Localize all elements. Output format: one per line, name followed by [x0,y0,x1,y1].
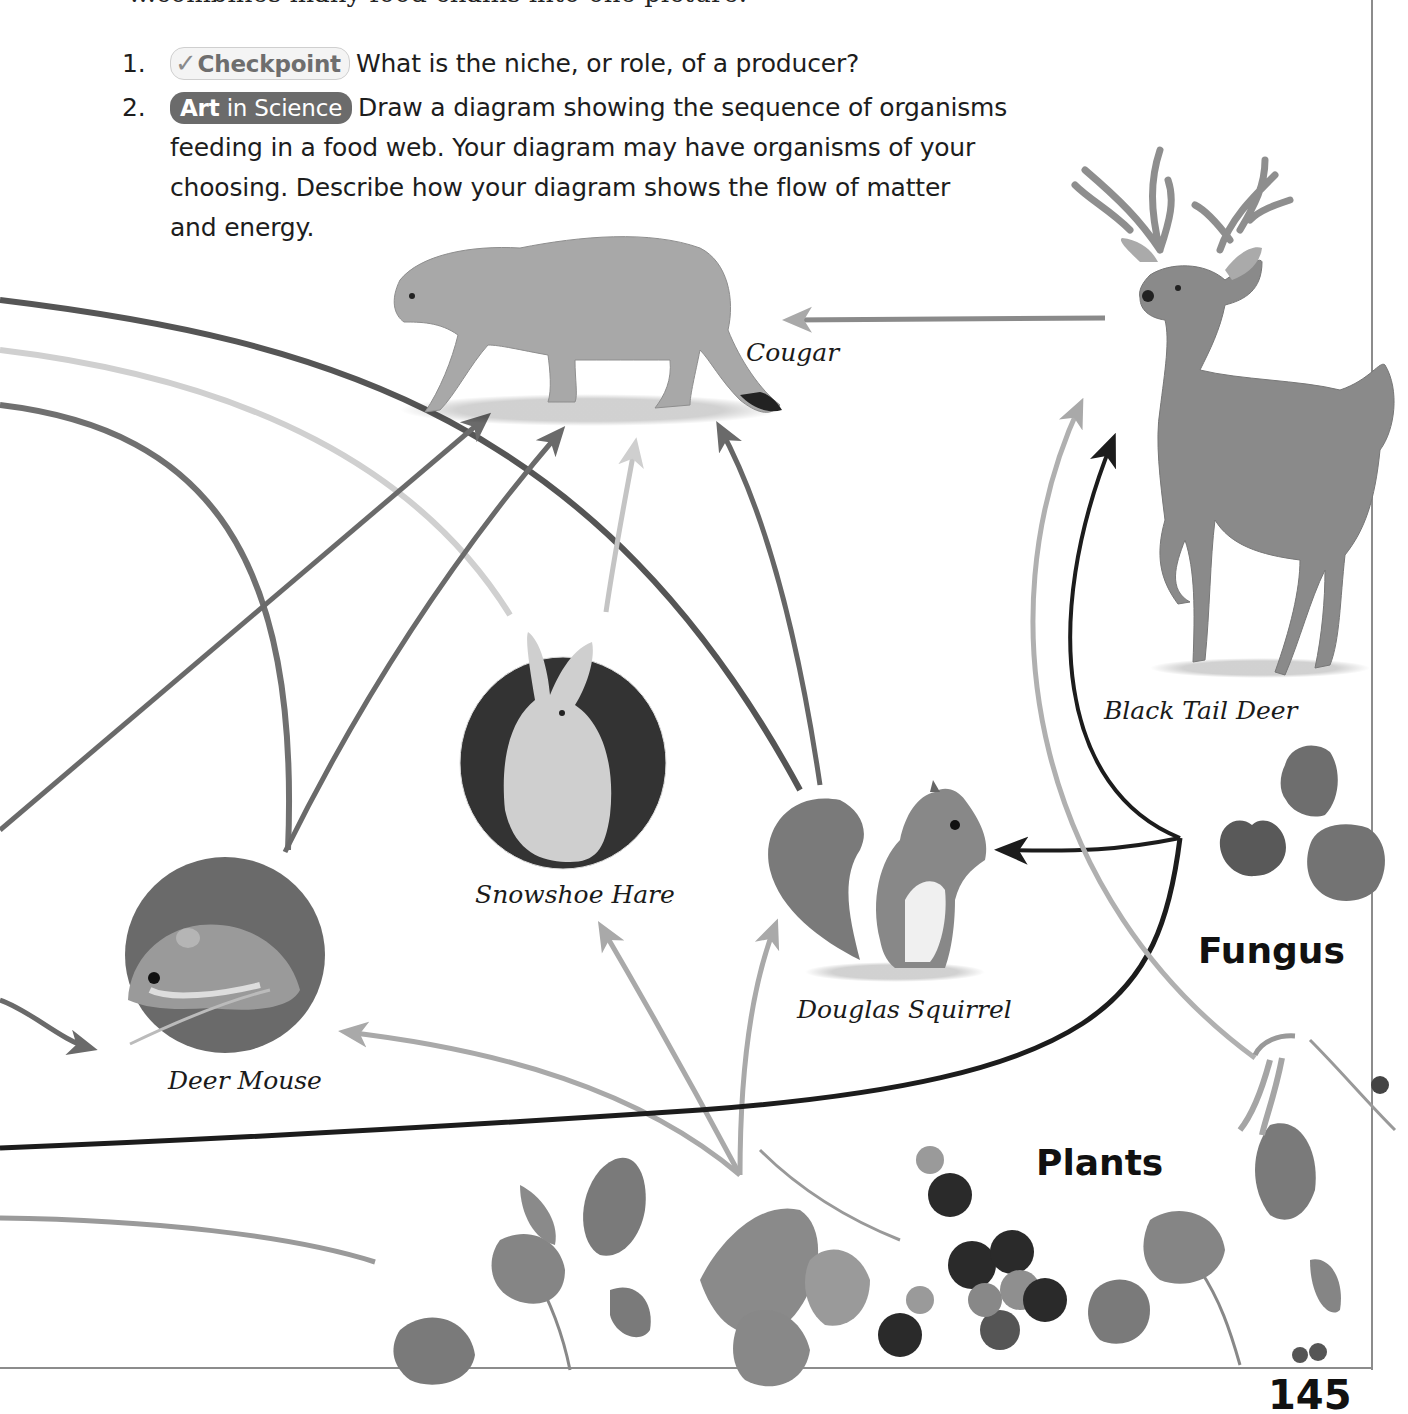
arrow-deer-to-cougar [790,318,1105,320]
squirrel-illustration [768,780,986,982]
arrow-offpage-to-plants [0,1218,375,1262]
label-cougar: Cougar [746,338,839,367]
label-snowshoe-hare: Snowshoe Hare [475,880,675,909]
arrow-plants-to-mouse [346,1032,740,1175]
label-fungus: Fungus [1198,930,1345,971]
label-douglas-squirrel: Douglas Squirrel [797,995,1012,1024]
label-black-tail-deer: Black Tail Deer [1104,696,1298,725]
mouse-illustration [125,857,325,1053]
cougar-illustration [394,237,782,426]
arrow-predator-to-cougar [0,418,485,830]
arrow-fungus-to-squirrel [1004,838,1180,851]
fungus-illustration [1220,746,1385,901]
arrow-offpage-to-mouse [0,405,289,850]
label-plants: Plants [1036,1142,1163,1183]
arrow-offpage-to-mouse-lower [0,1000,90,1048]
hare-illustration [460,632,666,869]
arrow-hare-to-cougar [606,445,635,612]
arrow-plants-to-squirrel [740,926,775,1175]
page-number: 145 [1268,1372,1352,1414]
arrow-plants-to-hare [602,928,740,1175]
deer-illustration [1075,150,1394,678]
arrow-squirrel-to-cougar [720,428,820,785]
label-deer-mouse: Deer Mouse [168,1066,322,1095]
